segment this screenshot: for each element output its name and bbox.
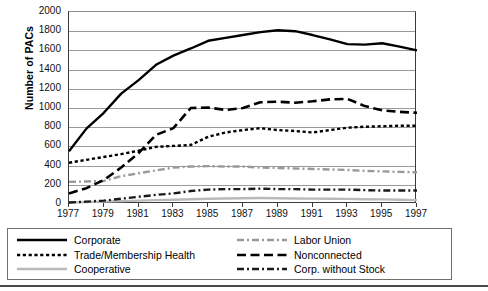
y-axis-tick-label: 2000: [21, 6, 61, 16]
legend-swatch-icon: [236, 263, 288, 275]
series-layer: [69, 12, 417, 204]
x-axis-tick-labels: 1977197919811983198519871989199119931995…: [0, 208, 488, 222]
legend-item[interactable]: Labor Union: [236, 233, 446, 248]
legend-item-label: Corp. without Stock: [294, 263, 385, 275]
legend-swatch-icon: [16, 249, 68, 261]
x-axis-tick-mark: [207, 203, 208, 207]
legend-item[interactable]: Corp. without Stock: [236, 262, 446, 277]
series-line: [69, 99, 417, 194]
x-axis-tick-mark: [68, 203, 69, 207]
x-axis-tick-label: 1997: [396, 208, 436, 220]
legend-column-right: Labor UnionNonconnectedCorp. without Sto…: [236, 233, 446, 277]
series-line: [69, 30, 417, 151]
y-axis-tick-label: 1200: [21, 83, 61, 93]
legend-swatch-icon: [16, 263, 68, 275]
y-axis-tick-label: 600: [21, 140, 61, 150]
bottom-divider: [0, 285, 488, 287]
line-chart: Number of PACs 2000180016001400120010008…: [0, 0, 488, 222]
x-axis-tick-mark: [416, 203, 417, 207]
legend-item-label: Labor Union: [294, 234, 351, 246]
y-axis-tick-label: 1800: [21, 25, 61, 35]
legend-swatch-icon: [236, 249, 288, 261]
x-axis-tick-mark: [172, 203, 173, 207]
chart-page: Number of PACs 2000180016001400120010008…: [0, 0, 488, 291]
y-axis-tick-label: 0: [21, 198, 61, 208]
series-line: [69, 198, 417, 203]
legend-item[interactable]: Corporate: [16, 233, 231, 248]
x-axis-tick-mark: [381, 203, 382, 207]
x-axis-tick-mark: [346, 203, 347, 207]
legend-swatch-icon: [16, 234, 68, 246]
x-axis-tick-mark: [103, 203, 104, 207]
legend-item-label: Nonconnected: [294, 249, 362, 261]
y-axis-tick-label: 800: [21, 121, 61, 131]
x-axis-tick-mark: [312, 203, 313, 207]
legend-swatch-icon: [236, 234, 288, 246]
x-axis-tick-mark: [277, 203, 278, 207]
legend: CorporateTrade/Membership HealthCooperat…: [7, 228, 452, 280]
legend-item-label: Corporate: [74, 234, 121, 246]
legend-column-left: CorporateTrade/Membership HealthCooperat…: [16, 233, 231, 277]
legend-item-label: Trade/Membership Health: [74, 249, 195, 261]
y-axis-tick-label: 1400: [21, 64, 61, 74]
legend-item[interactable]: Nonconnected: [236, 248, 446, 263]
y-axis-tick-label: 1000: [21, 102, 61, 112]
x-axis-tick-mark: [138, 203, 139, 207]
plot-area: [68, 11, 416, 203]
y-axis-tick-label: 1600: [21, 44, 61, 54]
y-axis-tick-labels: 2000180016001400120010008006004002000: [22, 0, 64, 215]
x-axis-tick-mark: [242, 203, 243, 207]
series-line: [69, 126, 417, 163]
y-axis-tick-label: 400: [21, 160, 61, 170]
legend-item[interactable]: Cooperative: [16, 262, 231, 277]
legend-item[interactable]: Trade/Membership Health: [16, 248, 231, 263]
y-axis-tick-label: 200: [21, 179, 61, 189]
legend-item-label: Cooperative: [74, 263, 131, 275]
